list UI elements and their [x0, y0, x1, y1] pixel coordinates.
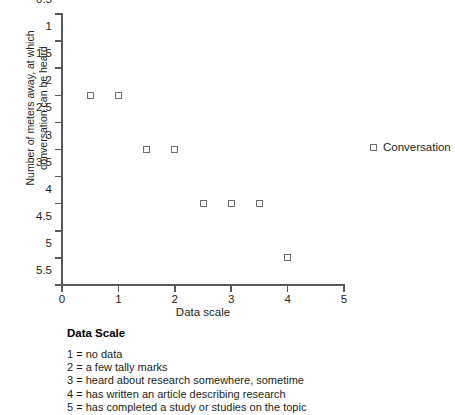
y-axis-tick-label: 4.5 — [26, 211, 52, 223]
y-axis-tick — [55, 67, 62, 69]
x-axis-tick — [118, 285, 120, 292]
data-point-marker — [228, 200, 235, 207]
x-axis-tick-label: 1 — [106, 293, 130, 305]
data-scale-key-item: 4 = has written an article describing re… — [67, 388, 407, 401]
y-axis-title: Number of meters away, at which conversa… — [24, 8, 50, 208]
x-axis-tick-label: 5 — [332, 293, 356, 305]
data-point-marker — [284, 254, 291, 261]
data-point-marker — [143, 146, 150, 153]
legend-label: Conversation — [383, 141, 451, 153]
legend-marker-icon — [370, 144, 377, 151]
data-scale-key-item: 1 = no data — [67, 348, 407, 361]
x-axis-tick — [287, 285, 289, 292]
x-axis-tick-label: 3 — [219, 293, 243, 305]
x-axis-tick — [174, 285, 176, 292]
data-scale-key: Data Scale 1 = no data2 = a few tally ma… — [67, 327, 407, 414]
data-point-marker — [87, 92, 94, 99]
data-scale-key-items: 1 = no data2 = a few tally marks3 = hear… — [67, 348, 407, 414]
y-axis-tick — [55, 149, 62, 151]
data-scale-key-item: 5 = has completed a study or studies on … — [67, 401, 407, 414]
y-axis-tick — [55, 13, 62, 15]
y-axis-tick — [55, 257, 62, 259]
chart-legend: Conversation — [370, 141, 451, 153]
x-axis-tick — [343, 285, 345, 292]
y-axis-tick-label: 5.5 — [26, 265, 52, 277]
data-scale-key-title: Data Scale — [67, 327, 407, 339]
x-axis-tick-label: 4 — [276, 293, 300, 305]
data-point-marker — [171, 146, 178, 153]
y-axis-tick — [55, 40, 62, 42]
data-point-marker — [200, 200, 207, 207]
y-axis-tick — [55, 230, 62, 232]
y-axis-tick — [55, 203, 62, 205]
data-point-marker — [256, 200, 263, 207]
y-axis-tick-label: 0.5 — [26, 0, 52, 6]
x-axis-tick-label: 2 — [163, 293, 187, 305]
data-scale-key-item: 3 = heard about research somewhere, some… — [67, 374, 407, 387]
data-scale-key-item: 2 = a few tally marks — [67, 361, 407, 374]
x-axis-tick — [230, 285, 232, 292]
plot-area — [62, 14, 344, 285]
scatter-chart-figure: 0.511.522.533.544.555.5 012345 Number of… — [0, 0, 455, 415]
y-axis-tick — [55, 122, 62, 124]
y-axis-tick — [55, 176, 62, 178]
x-axis-tick — [61, 285, 63, 292]
x-axis-title: Data scale — [61, 306, 345, 318]
data-point-marker — [115, 92, 122, 99]
x-axis-tick-label: 0 — [50, 293, 74, 305]
y-axis-tick — [55, 95, 62, 97]
y-axis-tick-label: 5 — [26, 238, 52, 250]
